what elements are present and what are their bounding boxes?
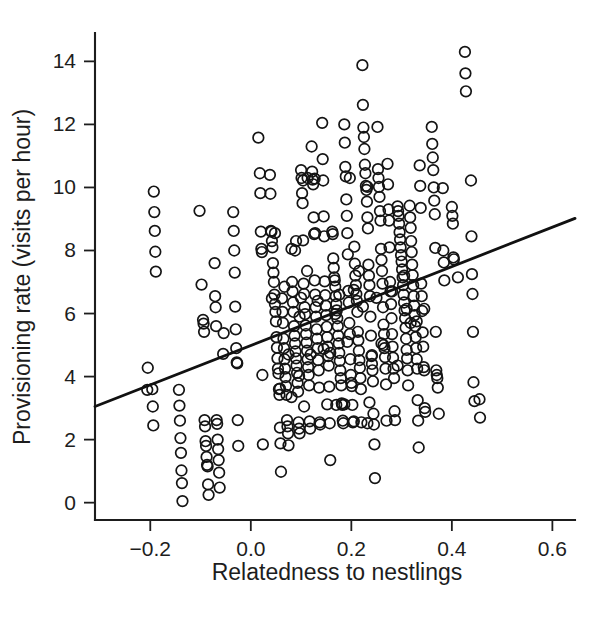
data-point [200, 421, 211, 432]
data-point [297, 198, 308, 209]
y-tick-label: 0 [64, 491, 76, 514]
data-point [382, 159, 393, 170]
data-point [374, 192, 385, 203]
data-point [196, 279, 207, 290]
data-point [342, 211, 353, 222]
data-point [364, 397, 375, 408]
data-point [265, 188, 276, 199]
data-point [310, 289, 321, 300]
data-point [318, 211, 329, 222]
data-point [325, 455, 336, 466]
y-axis-title: Provisioning rate (visits per hour) [9, 109, 35, 445]
data-point [267, 242, 278, 253]
data-point [376, 255, 387, 266]
data-point [404, 200, 415, 211]
y-tick-label: 2 [64, 428, 76, 451]
data-point [405, 223, 416, 234]
data-point [426, 122, 437, 133]
data-point [304, 380, 315, 391]
data-point [363, 223, 374, 234]
data-point [210, 291, 221, 302]
data-point [344, 318, 355, 329]
data-point [214, 467, 225, 478]
data-point [342, 228, 353, 239]
data-point [203, 489, 214, 500]
data-point [336, 380, 347, 391]
data-point [340, 137, 351, 148]
data-point [150, 226, 161, 237]
data-point [405, 212, 416, 223]
data-point [230, 324, 241, 335]
data-point [475, 412, 486, 423]
data-point [460, 47, 471, 58]
axes-group [95, 33, 575, 520]
data-point [309, 275, 320, 286]
data-point [305, 423, 316, 434]
data-point [317, 118, 328, 129]
data-point [229, 245, 240, 256]
data-point [403, 380, 414, 391]
data-point [313, 355, 324, 366]
data-point [461, 86, 472, 97]
data-point [429, 209, 440, 220]
data-point [418, 341, 429, 352]
data-point [324, 381, 335, 392]
data-point [416, 291, 427, 302]
data-point [233, 441, 244, 452]
data-point [194, 205, 205, 216]
x-tick-label: 0.4 [437, 537, 467, 560]
y-tick-label: 8 [64, 238, 76, 261]
data-point [253, 132, 264, 143]
data-point [453, 272, 464, 283]
data-point [439, 275, 450, 286]
data-point [362, 196, 373, 207]
data-point [148, 420, 159, 431]
data-point [415, 181, 426, 192]
data-point [413, 442, 424, 453]
data-point [368, 376, 379, 387]
data-point [257, 370, 268, 381]
data-point [148, 401, 159, 412]
data-point [174, 385, 185, 396]
y-tick-label: 10 [53, 175, 76, 198]
data-point [149, 186, 160, 197]
y-tick-label: 14 [53, 49, 77, 72]
y-tick-label: 4 [64, 365, 76, 388]
data-point [321, 321, 332, 332]
data-point [356, 384, 367, 395]
data-point [297, 188, 308, 199]
data-point [313, 365, 324, 376]
data-point [174, 400, 185, 411]
data-point [312, 296, 323, 307]
data-point [177, 478, 188, 489]
data-point [214, 482, 225, 493]
data-point [218, 328, 229, 339]
data-point [427, 139, 438, 150]
data-point [406, 247, 417, 258]
data-point [369, 439, 380, 450]
data-point [255, 188, 266, 199]
data-point [229, 267, 240, 278]
data-point [467, 269, 478, 280]
data-point [362, 212, 373, 223]
data-point [228, 226, 239, 237]
data-point [428, 165, 439, 176]
data-point [367, 365, 378, 376]
data-point [466, 175, 477, 186]
data-point [265, 170, 276, 181]
data-point [358, 100, 369, 111]
x-ticks-group: −0.20.00.20.40.6 [130, 520, 567, 560]
data-points-group [142, 47, 485, 507]
data-point [359, 144, 370, 155]
data-point [308, 212, 319, 223]
data-point [149, 207, 160, 218]
x-tick-label: 0.6 [538, 537, 567, 560]
caption-sliver [0, 607, 607, 617]
data-point [278, 318, 289, 329]
data-point [370, 473, 381, 484]
data-point [150, 246, 161, 257]
data-point [298, 278, 309, 289]
x-tick-label: 0.2 [337, 537, 366, 560]
data-point [209, 258, 220, 269]
x-tick-label: −0.2 [130, 537, 171, 560]
